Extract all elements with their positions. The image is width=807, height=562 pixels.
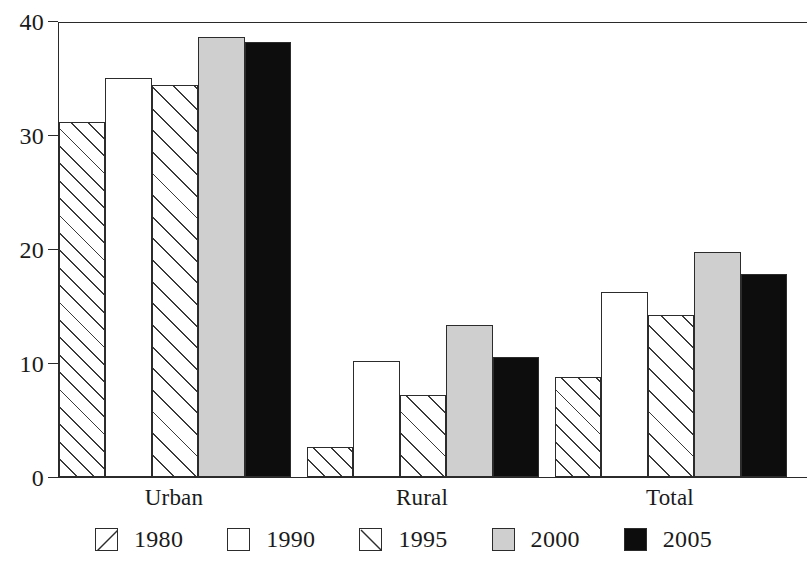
y-axis-tick bbox=[48, 249, 58, 250]
bar-chart: 010203040 UrbanRuralTotal 19801990199520… bbox=[0, 0, 807, 562]
legend-item-2005[interactable]: 2005 bbox=[624, 527, 712, 551]
y-axis-tick bbox=[48, 21, 58, 22]
y-axis-tick-label: 40 bbox=[0, 10, 44, 34]
legend-label-2000: 2000 bbox=[531, 527, 580, 551]
legend-label-1990: 1990 bbox=[266, 527, 315, 551]
y-axis-tick-label: 10 bbox=[0, 352, 44, 376]
legend-label-1995: 1995 bbox=[398, 527, 447, 551]
bar-urban-1980 bbox=[59, 122, 105, 477]
legend-key-hatch-forward-icon bbox=[95, 528, 118, 551]
bar-rural-2000 bbox=[446, 325, 492, 477]
bar-rural-1995 bbox=[400, 395, 446, 477]
y-axis-tick bbox=[48, 477, 58, 478]
chart-legend: 19801990199520002005 bbox=[0, 522, 807, 556]
legend-label-1980: 1980 bbox=[134, 527, 183, 551]
x-axis-label-urban: Urban bbox=[58, 486, 290, 509]
bar-rural-1980 bbox=[307, 447, 353, 477]
bar-urban-2005 bbox=[245, 42, 291, 477]
legend-key-gray-icon bbox=[492, 528, 515, 551]
legend-label-2005: 2005 bbox=[663, 527, 712, 551]
legend-item-1990[interactable]: 1990 bbox=[227, 527, 315, 551]
bars-layer bbox=[59, 23, 807, 477]
bar-urban-1995 bbox=[152, 85, 198, 477]
y-axis-tick bbox=[48, 363, 58, 364]
bar-total-1990 bbox=[601, 292, 647, 477]
legend-item-2000[interactable]: 2000 bbox=[492, 527, 580, 551]
bar-urban-2000 bbox=[198, 37, 244, 477]
legend-item-1980[interactable]: 1980 bbox=[95, 527, 183, 551]
x-axis-label-total: Total bbox=[554, 486, 786, 509]
bar-urban-1990 bbox=[105, 78, 151, 477]
plot-area bbox=[58, 22, 807, 478]
legend-key-black-icon bbox=[624, 528, 647, 551]
legend-key-empty-icon bbox=[227, 528, 250, 551]
bar-total-2005 bbox=[741, 274, 787, 477]
bar-rural-1990 bbox=[353, 361, 399, 477]
bar-rural-2005 bbox=[493, 357, 539, 477]
legend-item-1995[interactable]: 1995 bbox=[359, 527, 447, 551]
bar-total-2000 bbox=[694, 252, 740, 477]
y-axis-tick-label: 0 bbox=[0, 466, 44, 490]
bar-total-1980 bbox=[555, 377, 601, 477]
y-axis-tick-label: 20 bbox=[0, 238, 44, 262]
y-axis-tick-label: 30 bbox=[0, 124, 44, 148]
legend-key-hatch-backward-icon bbox=[359, 528, 382, 551]
x-axis-label-rural: Rural bbox=[306, 486, 538, 509]
y-axis-tick bbox=[48, 135, 58, 136]
bar-total-1995 bbox=[648, 315, 694, 477]
